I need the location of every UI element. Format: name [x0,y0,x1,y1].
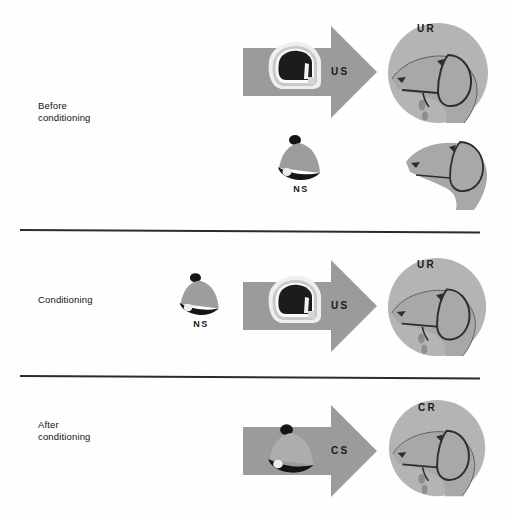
bell-icon [273,134,329,182]
ur-dog-before: UR [386,21,494,129]
dog-head-salivating-icon [386,21,494,129]
classical-conditioning-figure: Before conditioning US [0,0,508,521]
phase-after-conditioning: After conditioning CS [0,378,508,521]
ns-symbol-before: NS [273,184,329,194]
phase-label-after: After conditioning [38,419,91,442]
dog-head-salivating-icon [387,398,491,502]
phase-conditioning: Conditioning NS US [0,232,508,370]
phase-before-conditioning: Before conditioning US [0,0,508,228]
ur-symbol-conditioning: UR [417,259,436,270]
meat-icon [261,271,327,327]
cs-arrow-after: CS [243,405,378,497]
no-response-dog-before [404,134,496,220]
ur-symbol-before: UR [417,23,436,34]
ns-bell-before: NS [273,134,329,182]
ns-symbol-conditioning: NS [175,319,227,329]
cr-symbol-after: CR [418,402,437,413]
phase-label-conditioning: Conditioning [38,294,93,306]
us-arrow-conditioning: US [243,260,378,352]
phase-label-before: Before conditioning [38,100,91,123]
us-symbol-conditioning: US [331,300,349,311]
us-arrow-before: US [243,26,378,118]
meat-icon [261,37,327,93]
cr-dog-after: CR [387,398,491,502]
ur-dog-conditioning: UR [386,256,492,362]
dog-head-salivating-icon [386,256,492,362]
ns-bell-conditioning: NS [175,272,227,317]
us-symbol-before: US [331,66,349,77]
bell-icon [175,272,227,317]
dog-head-icon [404,134,496,220]
cs-symbol-after: CS [331,445,349,456]
bell-icon [263,423,323,475]
